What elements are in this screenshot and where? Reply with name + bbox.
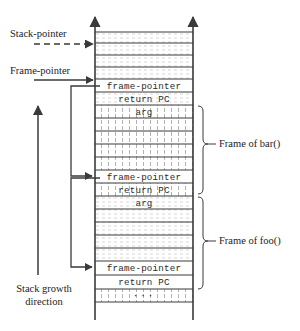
stack-growth-direction-label: Stack growth direction <box>4 283 84 308</box>
frame-pointer-label: Frame-pointer <box>10 65 70 77</box>
cell-label-arg-foo: arg <box>95 198 193 209</box>
stack-pointer-label: Stack-pointer <box>10 28 67 40</box>
cell-label-frame-pointer-caller: frame-pointer <box>95 263 193 274</box>
cell-label-return-pc-foo: return PC <box>95 185 193 196</box>
cell-label-frame-pointer-foo: frame-pointer <box>95 172 193 183</box>
frame-of-foo-label: Frame of foo() <box>219 235 281 247</box>
cell-label-return-pc-caller: return PC <box>95 277 193 288</box>
brace-frame-bar <box>198 106 216 194</box>
stack-growth-line2: direction <box>4 296 84 309</box>
frame-of-bar-label: Frame of bar() <box>219 138 280 150</box>
stack-growth-line1: Stack growth <box>4 283 84 296</box>
cell-label-frame-pointer-bar: frame-pointer <box>95 81 193 92</box>
cell-label-return-pc-bar: return PC <box>95 94 193 105</box>
stack-frame-diagram: Stack-pointer Frame-pointer Stack growth… <box>0 0 300 331</box>
brace-frame-foo <box>198 197 216 289</box>
cell-label-ellipsis: ··· <box>95 290 193 301</box>
cell-label-arg-bar: arg <box>95 107 193 118</box>
